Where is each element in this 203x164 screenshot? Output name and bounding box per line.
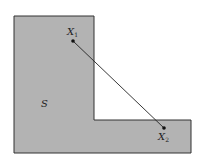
point-x2 xyxy=(162,126,166,130)
label-region-s: S xyxy=(41,98,48,109)
point-x1 xyxy=(71,39,75,43)
nonconvex-set-diagram: X1 X2 S xyxy=(0,0,203,164)
